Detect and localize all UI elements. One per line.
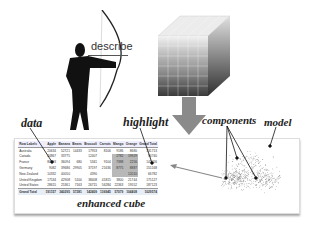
- annotation-arrows: [0, 0, 309, 229]
- link-arrow: [172, 166, 222, 178]
